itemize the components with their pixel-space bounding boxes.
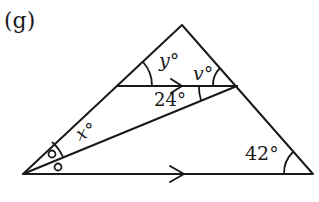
geometry-diagram: (g) y° v° 24° x° 42° (0, 0, 319, 202)
angle-label-x: x° (73, 118, 99, 145)
transversal-line (23, 86, 237, 174)
angle-arc-42 (284, 152, 293, 174)
angle-arc-y (143, 62, 152, 86)
equal-angle-marker-lower (55, 164, 62, 171)
angle-label-24: 24° (154, 89, 186, 110)
angle-label-y: y° (158, 49, 179, 71)
figure-label: (g) (4, 8, 35, 33)
angle-label-v: v° (193, 62, 213, 84)
equal-angle-marker-upper (49, 151, 56, 158)
angle-arc-v (213, 68, 220, 86)
angle-label-42: 42° (245, 142, 279, 164)
angle-arc-x (52, 142, 63, 157)
angle-arc-24 (199, 86, 201, 100)
